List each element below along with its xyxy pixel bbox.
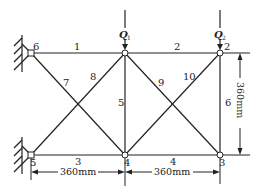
dimension-label-bottom-left: 360mm [60, 166, 96, 177]
member-label-2: 2 [174, 41, 180, 52]
arrow-left-icon [125, 170, 132, 175]
member-label-6: 6 [225, 97, 231, 108]
arrow-down-icon [238, 148, 243, 155]
svg-text:1: 1 [127, 34, 131, 41]
member-label-1: 1 [74, 41, 80, 52]
arrow-up-icon [238, 53, 243, 60]
arrow-right-icon [118, 170, 125, 175]
arrow-down-icon [217, 44, 223, 50]
member-label-9: 9 [158, 77, 164, 88]
arrow-right-icon [213, 170, 220, 175]
member-label-8: 8 [90, 71, 96, 82]
node-1 [122, 50, 128, 56]
dimension-label-bottom-right: 360mm [154, 166, 190, 177]
arrow-left-icon [31, 170, 38, 175]
node-label-2: 2 [224, 41, 230, 52]
arrow-down-icon [122, 44, 128, 50]
load-q1: Q 1 [119, 10, 131, 50]
member-label-10: 10 [183, 71, 196, 82]
svg-text:2: 2 [222, 34, 226, 41]
node-2 [217, 50, 223, 56]
truss-diagram: Q 1 Q 2 6 2 5 4 3 1 2 3 4 5 6 7 8 9 10 [0, 0, 256, 192]
member-label-7: 7 [63, 77, 69, 88]
node-label-6: 6 [33, 41, 39, 52]
dimension-label-right: 360mm [235, 82, 246, 118]
member-label-5: 5 [118, 97, 124, 108]
truss-members [31, 53, 250, 155]
